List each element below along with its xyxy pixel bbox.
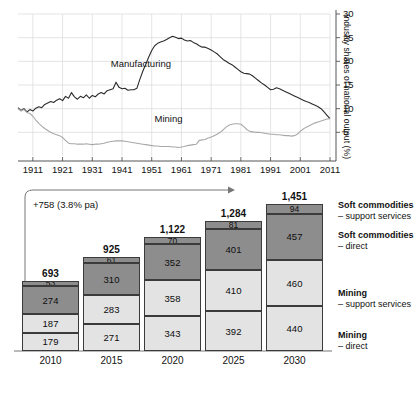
- line-chart-gridlines: [18, 14, 330, 156]
- legend-item-title: Soft commodities: [338, 230, 418, 241]
- line-chart-panel: 51015202530 1911192119311941195119611971…: [0, 0, 398, 178]
- legend-item: Soft commodities– direct: [338, 230, 418, 252]
- bar-x-tick: 2020: [138, 355, 208, 366]
- bar-segment: 460: [266, 260, 323, 307]
- legend-item-title: Soft commodities: [338, 200, 418, 211]
- bar-column-2010: 53274187179: [22, 178, 79, 351]
- bar-column-2025: 81401410392: [205, 178, 262, 351]
- legend-item-subtitle: – direct: [338, 341, 418, 352]
- legend-item-subtitle: – support services: [338, 299, 418, 310]
- line-chart-svg: [0, 0, 398, 178]
- bar-column-2020: 70352358343: [144, 178, 201, 351]
- bar-column-2030: 94457460440: [266, 178, 323, 351]
- bar-segment: 392: [205, 311, 262, 351]
- bar-segment: 310: [83, 263, 140, 294]
- bar-segment: 358: [144, 280, 201, 316]
- legend-item-title: Mining: [338, 330, 418, 341]
- bar-segment: 179: [22, 333, 79, 351]
- bar-total-label: 1,122: [138, 224, 208, 235]
- manufacturing-series-line: [18, 36, 330, 118]
- line-chart-y-axis-label: Industry shares of national output (%): [342, 14, 352, 154]
- bar-segment: 352: [144, 244, 201, 280]
- bar-segment: 81: [205, 221, 262, 229]
- bar-x-tick: 2010: [16, 355, 86, 366]
- legend-item: Mining– direct: [338, 330, 418, 352]
- line-chart-axes: [18, 10, 340, 161]
- bar-chart-panel: +758 (3.8% pa) 5327418717961310283271703…: [0, 178, 398, 395]
- bar-segment: 70: [144, 237, 201, 244]
- bar-segment: 271: [83, 324, 140, 351]
- manufacturing-series-label: Manufacturing: [111, 58, 171, 69]
- bar-segment: 410: [205, 270, 262, 312]
- bar-total-label: 693: [16, 268, 86, 279]
- bar-segment: 343: [144, 316, 201, 351]
- bar-segment: 274: [22, 286, 79, 314]
- legend-item: Soft commodities– support services: [338, 200, 418, 222]
- bar-segment: 457: [266, 214, 323, 260]
- line-chart-x-tick: 2011: [313, 164, 347, 175]
- bar-segment: 94: [266, 204, 323, 214]
- mining-series-label: Mining: [155, 113, 183, 124]
- legend-item: Mining– support services: [338, 288, 418, 310]
- bar-total-label: 1,451: [260, 191, 330, 202]
- bar-segment: 283: [83, 295, 140, 324]
- bar-column-2015: 61310283271: [83, 178, 140, 351]
- bar-x-tick: 2025: [199, 355, 269, 366]
- legend-item-subtitle: – support services: [338, 211, 418, 222]
- bar-segment: 187: [22, 314, 79, 333]
- legend-item-subtitle: – direct: [338, 241, 418, 252]
- bar-x-tick: 2030: [260, 355, 330, 366]
- bar-segment: 401: [205, 229, 262, 270]
- legend-item-title: Mining: [338, 288, 418, 299]
- bar-x-tick: 2015: [77, 355, 147, 366]
- bar-total-label: 925: [77, 244, 147, 255]
- bar-total-label: 1,284: [199, 208, 269, 219]
- bar-segment: 440: [266, 306, 323, 351]
